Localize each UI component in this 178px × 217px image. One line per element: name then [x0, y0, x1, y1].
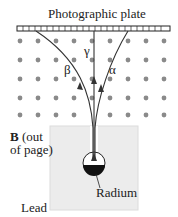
beta-label: β	[64, 63, 71, 76]
lead-label: Lead	[21, 201, 47, 214]
photographic-plate	[17, 26, 170, 31]
alpha-label: α	[109, 63, 116, 76]
gamma-label: γ	[84, 44, 90, 57]
field-label-line2: of page)	[10, 143, 53, 156]
field-dots	[18, 39, 167, 118]
diagram-canvas	[0, 0, 178, 217]
radium-label: Radium	[96, 186, 137, 199]
